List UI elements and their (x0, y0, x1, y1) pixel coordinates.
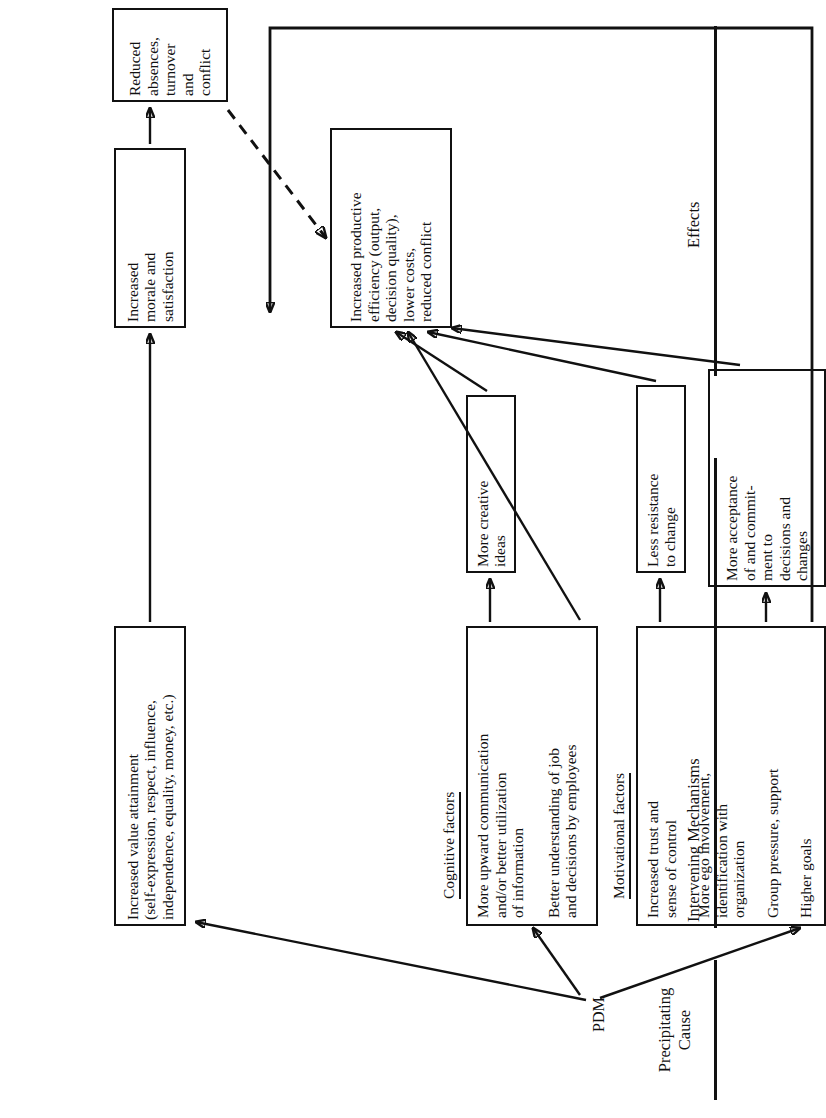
section-label-line1: Precipitating (655, 960, 675, 1100)
text-line: absences, (144, 14, 162, 96)
node-group-pressure-text: Group pressure, support (764, 632, 782, 918)
section-label-effects: Effects (684, 202, 704, 248)
text-line: to change (661, 391, 679, 567)
text-line: satisfaction (159, 154, 177, 322)
text-line: of information (509, 632, 527, 918)
section-heading-precipitating-cause: Precipitating Cause (655, 960, 695, 1100)
text-line: efficiency (output, (365, 134, 383, 322)
subheading-cognitive-factors: Cognitive factors (440, 792, 461, 899)
section-label-line2: Cause (675, 960, 695, 1100)
text-line: and (179, 14, 197, 96)
text-line: decision quality), (382, 134, 400, 322)
node-productive-efficiency: Increased productive efficiency (output,… (330, 128, 452, 328)
node-less-resistance-text: Less resistance to change (644, 391, 679, 567)
text-line: lower costs, (400, 134, 418, 322)
node-motivational-group: Increased trust and sense of control Mor… (636, 626, 826, 926)
text-line: Reduced (126, 14, 144, 96)
node-upward-communication-text: More upward communication and/or better … (474, 632, 527, 918)
node-value-attainment-text: Increased value attainment (self-express… (124, 632, 177, 920)
node-morale-satisfaction-text: Increased morale and satisfaction (124, 154, 177, 322)
edge-more-acceptance-to-efficiency (452, 328, 740, 365)
text-line: Group pressure, support (764, 632, 782, 918)
section-rule-precipitating-cause (714, 960, 717, 1100)
text-line: ment to (758, 375, 776, 581)
node-better-understanding-text: Better understanding of job and decision… (545, 632, 580, 918)
edge-reduced-absences-to-efficiency (228, 110, 326, 238)
node-more-acceptance: More acceptance of and commit- ment to d… (708, 369, 826, 587)
node-morale-satisfaction: Increased morale and satisfaction (114, 148, 186, 328)
text-line: reduced conflict (417, 134, 435, 322)
section-heading-effects: Effects (684, 202, 704, 248)
text-line: Increased trust and (644, 632, 662, 918)
node-pdm: PDM (590, 997, 608, 1032)
text-line: More creative (474, 401, 492, 567)
text-line: Increased productive (347, 134, 365, 322)
node-more-acceptance-text: More acceptance of and commit- ment to d… (723, 375, 811, 581)
node-higher-goals-text: Higher goals (797, 632, 815, 918)
edge-creative-ideas-to-efficiency (396, 332, 487, 391)
edge-pdm-to-motivational-group (600, 928, 800, 998)
node-pdm-label: PDM (590, 997, 608, 1032)
text-line: changes (793, 375, 811, 581)
node-productive-efficiency-text: Increased productive efficiency (output,… (347, 134, 435, 322)
text-line: independence, equality, money, etc.) (159, 632, 177, 920)
subheading-motivational-factors: Motivational factors (610, 773, 631, 899)
text-line: identification with (713, 632, 731, 918)
node-reduced-absences-text: Reduced absences, turnover and conflict (126, 14, 214, 96)
node-value-attainment: Increased value attainment (self-express… (114, 626, 186, 926)
edge-pdm-to-value-attainment (196, 922, 586, 1000)
text-line: More acceptance (723, 375, 741, 581)
node-creative-ideas-text: More creative ideas (474, 401, 509, 567)
text-line: Higher goals (797, 632, 815, 918)
edge-less-resistance-to-efficiency (428, 332, 656, 381)
node-creative-ideas: More creative ideas (466, 395, 516, 573)
text-line: Less resistance (644, 391, 662, 567)
text-line: More ego involvement, (695, 632, 713, 918)
text-line: sense of control (662, 632, 680, 918)
text-line: organization (730, 632, 748, 918)
text-line: decisions and (776, 375, 794, 581)
text-line: Increased value attainment (124, 632, 142, 920)
text-line: (self-expression, respect, influence, (141, 632, 159, 920)
text-line: of and commit- (741, 375, 759, 581)
text-line: Increased (124, 154, 142, 322)
text-line: and decisions by employees (562, 632, 580, 918)
node-less-resistance: Less resistance to change (636, 385, 686, 573)
text-line: ideas (491, 401, 509, 567)
edge-pdm-to-cognitive-group (533, 928, 580, 995)
node-cognitive-group: More upward communication and/or better … (466, 626, 598, 926)
node-reduced-absences: Reduced absences, turnover and conflict (112, 8, 228, 102)
text-line: Better understanding of job (545, 632, 563, 918)
text-line: More upward communication (474, 632, 492, 918)
text-line: turnover (161, 14, 179, 96)
section-rule-effects (714, 26, 717, 376)
node-ego-involvement-text: More ego involvement, identification wit… (695, 632, 748, 918)
text-line: conflict (196, 14, 214, 96)
text-line: morale and (141, 154, 159, 322)
node-trust-control-text: Increased trust and sense of control (644, 632, 679, 918)
text-line: and/or better utilization (492, 632, 510, 918)
